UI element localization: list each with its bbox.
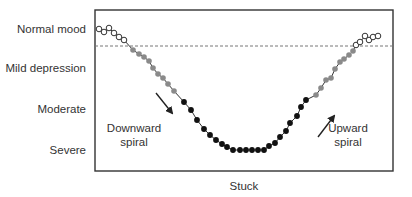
- data-point: [150, 65, 156, 71]
- data-point: [194, 117, 200, 123]
- data-point: [106, 25, 112, 31]
- data-point: [188, 107, 194, 113]
- data-point: [341, 56, 347, 62]
- data-point: [101, 29, 107, 35]
- data-point: [266, 143, 272, 149]
- y-label-normal-mood: Normal mood: [17, 23, 86, 35]
- data-point: [294, 113, 300, 119]
- data-point: [111, 30, 117, 36]
- data-point: [375, 33, 381, 39]
- data-point: [323, 77, 329, 83]
- series-normal-left: [96, 25, 127, 43]
- downward-spiral-label-line1: Downward: [107, 122, 161, 134]
- data-point: [261, 147, 267, 153]
- data-point: [277, 134, 283, 140]
- data-point: [171, 88, 177, 94]
- data-point: [303, 97, 309, 103]
- y-label-moderate: Moderate: [37, 103, 86, 115]
- upward-spiral-label-line1: Upward: [328, 122, 368, 134]
- x-axis-label-stuck: Stuck: [230, 180, 259, 192]
- data-point: [313, 92, 319, 98]
- data-point: [230, 147, 236, 153]
- data-point: [255, 147, 261, 153]
- data-point: [298, 104, 304, 110]
- data-point: [165, 81, 171, 87]
- data-point: [155, 71, 161, 77]
- data-point: [249, 147, 255, 153]
- data-point: [237, 147, 243, 153]
- y-label-severe: Severe: [50, 144, 86, 156]
- data-point: [272, 140, 278, 146]
- data-point: [201, 126, 207, 132]
- data-point: [181, 99, 187, 105]
- data-point: [136, 51, 142, 57]
- upward-spiral-label-line2: spiral: [334, 136, 361, 148]
- data-point: [318, 85, 324, 91]
- y-label-mild-depression: Mild depression: [5, 62, 86, 74]
- data-point: [283, 128, 289, 134]
- data-point: [146, 58, 152, 64]
- data-point: [350, 48, 356, 54]
- data-point: [219, 141, 225, 147]
- data-point: [121, 37, 127, 43]
- data-point: [213, 137, 219, 143]
- data-point: [160, 75, 166, 81]
- mood-spiral-diagram: Normal mood Mild depression Moderate Sev…: [0, 0, 412, 197]
- downward-arrow-icon: [156, 93, 172, 113]
- downward-spiral-label-line2: spiral: [120, 136, 147, 148]
- data-point: [328, 75, 334, 81]
- data-point: [332, 66, 338, 72]
- series-mild-ascending: [313, 48, 356, 98]
- data-point: [346, 52, 352, 58]
- data-point: [357, 39, 363, 45]
- data-point: [224, 144, 230, 150]
- data-point: [287, 120, 293, 126]
- data-point: [207, 132, 213, 138]
- data-point: [141, 54, 147, 60]
- data-point: [243, 147, 249, 153]
- data-point: [130, 47, 136, 53]
